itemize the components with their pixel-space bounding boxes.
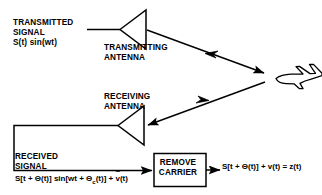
transmitted-signal-label: TRANSMITTED SIGNAL S(t) sin(wt) xyxy=(13,18,73,48)
transmitting-antenna-line1: TRANSMITTING xyxy=(104,43,168,53)
transmitting-antenna-line2: ANTENNA xyxy=(104,53,168,63)
downlink-beam-line xyxy=(148,82,265,125)
received-formula-part1: S[t + Θ(t)] sin[wt + Θ xyxy=(15,174,92,183)
transmitted-signal-formula: S(t) sin(wt) xyxy=(13,38,73,48)
downlink-direction-arrowhead xyxy=(196,96,209,103)
remove-carrier-line2: CARRIER xyxy=(150,168,206,178)
received-signal-line2: SIGNAL xyxy=(15,162,58,172)
receiving-antenna-label: RECEIVING ANTENNA xyxy=(104,92,150,112)
remove-carrier-label: REMOVE CARRIER xyxy=(150,158,206,178)
received-formula-part3: (t) xyxy=(120,174,128,183)
tilde-accent-icon: ~ xyxy=(115,170,118,174)
output-signal-formula: S[t + Θ(t)] + v(t) = z(t) xyxy=(222,162,301,172)
received-signal-formula: S[t + Θ(t)] sin[wt + Θc(t)] + ~v(t) xyxy=(15,174,128,187)
received-signal-line1: RECEIVED xyxy=(15,152,58,162)
receiving-antenna-line1: RECEIVING xyxy=(104,92,150,102)
receiving-antenna-line2: ANTENNA xyxy=(104,102,150,112)
transmitting-antenna-label: TRANSMITTING ANTENNA xyxy=(104,43,168,63)
received-signal-label: RECEIVED SIGNAL xyxy=(15,152,58,172)
received-formula-noise-term: ~v xyxy=(115,174,119,184)
received-formula-part2: (t)] + xyxy=(96,174,116,183)
transmitted-signal-line2: SIGNAL xyxy=(13,28,73,38)
remove-carrier-line1: REMOVE xyxy=(150,158,206,168)
signal-flow-diagram: TRANSMITTED SIGNAL S(t) sin(wt) TRANSMIT… xyxy=(0,0,322,195)
transmitted-signal-line1: TRANSMITTED xyxy=(13,18,73,28)
airplane-icon xyxy=(276,64,322,88)
